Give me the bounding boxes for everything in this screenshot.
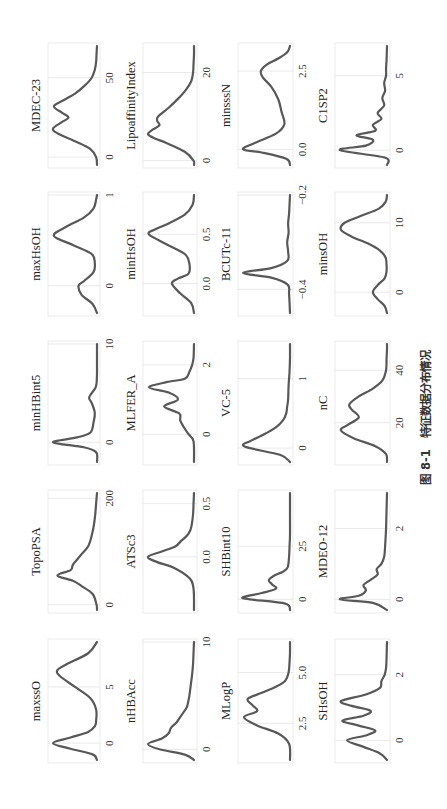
panel-title: C1SP2: [316, 88, 330, 123]
tick-label: 2: [393, 526, 405, 532]
feature-distribution-figure: 050MDEC-23020LipoaffinityIndex0.02.5mins…: [0, 0, 447, 809]
panel-title: nC: [316, 396, 330, 411]
tick-label: 0: [103, 283, 115, 289]
tick-label: −0.2: [296, 185, 308, 205]
tick-label: 0.0: [200, 549, 212, 563]
panel-title: ATSc3: [124, 534, 138, 568]
tick-label: 0: [103, 601, 115, 607]
panel-frame: [335, 341, 390, 465]
panel-title: maxHsOH: [29, 227, 43, 280]
tick-label: 0.0: [200, 276, 212, 290]
tick-label: 0: [103, 154, 115, 160]
panel-frame: [143, 490, 197, 613]
panel-title: SHBint10: [219, 526, 233, 576]
tick-label: 0: [393, 596, 405, 602]
tick-label: 20: [200, 66, 212, 78]
panel-title: VC-5: [219, 389, 233, 417]
figure-caption: 图 8-1 特征数据分布情况: [419, 349, 433, 485]
tick-label: 2.5: [296, 716, 308, 730]
tick-label: 0: [103, 439, 115, 445]
density-panel-mlfer_a: 02MLFER_A: [124, 341, 212, 465]
tick-label: 0: [200, 431, 212, 437]
panel-title: minHBint5: [29, 375, 43, 431]
density-panel-shbint10: 025SHBint10: [219, 490, 308, 613]
density-panel-maxhsoh: 01maxHsOH: [29, 192, 115, 316]
panel-frame: [238, 490, 293, 613]
density-panel-nc: 2040nC: [316, 341, 405, 465]
panel-frame: [238, 639, 293, 763]
tick-label: 10: [200, 636, 212, 648]
tick-label: 0: [200, 157, 212, 163]
density-panel-minsoh: 010minsOH: [316, 192, 405, 316]
density-panel-mdeo-12: 02MDEO-12: [316, 490, 405, 613]
tick-label: 0.0: [296, 142, 308, 156]
tick-label: 5: [103, 684, 115, 690]
panel-title: nHBAcc: [124, 679, 138, 723]
density-panel-atsc3: 0.00.5ATSc3: [124, 490, 212, 613]
density-panel-nhbacc: 010nHBAcc: [124, 636, 212, 763]
tick-label: 0: [296, 445, 308, 451]
tick-label: 10: [103, 338, 115, 350]
tick-label: 0: [393, 289, 405, 295]
tick-label: 0: [393, 147, 405, 153]
density-panel-minsssn: 0.02.5minsssN: [219, 43, 308, 168]
tick-label: 20: [393, 417, 405, 429]
panel-title: LipoaffinityIndex: [124, 60, 138, 149]
density-panel-maxsso: 05maxssO: [29, 639, 115, 763]
tick-label: 0.5: [200, 227, 212, 241]
tick-label: 50: [103, 72, 115, 84]
tick-label: 5.0: [296, 665, 308, 679]
tick-label: 1: [296, 376, 308, 382]
tick-label: 0: [296, 596, 308, 602]
density-panel-minhsoh: 0.00.5minHsOH: [124, 192, 212, 316]
tick-label: 0: [200, 746, 212, 752]
tick-label: 2.5: [296, 64, 308, 78]
density-panels-grid: 050MDEC-23020LipoaffinityIndex0.02.5mins…: [29, 43, 405, 763]
tick-label: 2: [200, 362, 212, 368]
tick-label: 2: [393, 672, 405, 678]
tick-label: 40: [393, 364, 405, 376]
density-panel-topopsa: 0200TopoPSA: [29, 490, 115, 613]
density-panel-vc-5: 01VC-5: [219, 341, 308, 465]
density-panel-c1sp2: 05C1SP2: [316, 43, 405, 168]
tick-label: 1: [103, 192, 115, 198]
tick-label: 0.5: [200, 496, 212, 510]
density-panel-mdec-23: 050MDEC-23: [29, 43, 115, 168]
panel-title: MDEO-12: [316, 525, 330, 578]
density-panel-minhbint5: 010minHBint5: [29, 338, 115, 465]
density-panel-bcutc-11: −0.4−0.2BCUTc-11: [219, 185, 308, 316]
tick-label: 5: [393, 73, 405, 79]
panel-title: SHsOH: [316, 682, 330, 721]
tick-label: 25: [296, 540, 308, 552]
panel-frame: [238, 192, 293, 316]
panel-title: minsOH: [316, 233, 330, 275]
panel-title: maxssO: [29, 681, 43, 721]
panel-title: minHsOH: [124, 228, 138, 279]
density-panel-shsoh: 02SHsOH: [316, 639, 405, 763]
tick-label: 10: [393, 217, 405, 229]
tick-label: 0: [393, 737, 405, 743]
panel-title: TopoPSA: [29, 527, 43, 575]
panel-title: BCUTc-11: [219, 227, 233, 281]
density-panel-mlogp: 2.55.0MLogP: [219, 639, 308, 763]
tick-label: 200: [103, 490, 115, 507]
tick-label: 0: [103, 740, 115, 746]
panel-title: MDEC-23: [29, 79, 43, 132]
tick-label: −0.4: [296, 279, 308, 299]
panel-frame: [335, 192, 390, 316]
panel-title: MLogP: [219, 682, 233, 720]
panel-title: minsssN: [219, 84, 233, 127]
panel-title: MLFER_A: [124, 375, 138, 432]
density-panel-lipoaffinityindex: 020LipoaffinityIndex: [124, 43, 212, 168]
